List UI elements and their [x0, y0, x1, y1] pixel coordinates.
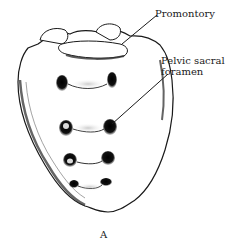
foramen-1-left [56, 75, 68, 91]
foramen-4-right [100, 178, 112, 186]
foramen-label-line2: foramen [161, 66, 225, 77]
sacrum-drawing [0, 0, 236, 249]
sacrum-illustration: Promontory Pelvic sacral foramen A [0, 0, 236, 249]
figure-caption: A [100, 229, 107, 240]
promontory-label: Promontory [155, 8, 215, 19]
foramen-1-right [107, 72, 117, 88]
pelvic-sacral-foramen-label: Pelvic sacral foramen [161, 55, 225, 77]
foramen-label-line1: Pelvic sacral [161, 55, 225, 66]
foramen-3-right [101, 151, 115, 165]
